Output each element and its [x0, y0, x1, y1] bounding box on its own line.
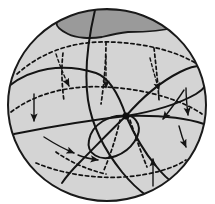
phase-portrait-figure — [0, 0, 215, 204]
phase-portrait-canvas — [0, 0, 215, 204]
singular-point-marker — [122, 112, 129, 119]
